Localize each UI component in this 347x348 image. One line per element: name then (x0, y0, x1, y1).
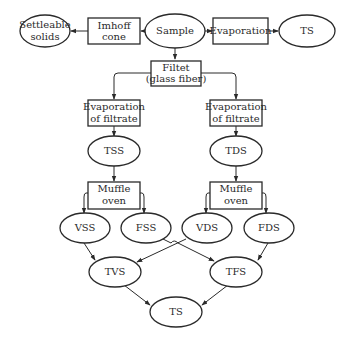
solids-analysis-flowchart: Settleable solids Imhoff cone Sample Eva… (0, 0, 347, 348)
filter-label-line2: (glass fiber) (146, 73, 207, 84)
tfs-label: TFS (226, 266, 247, 277)
evap-right-label-line2: of filtrate (212, 113, 260, 124)
evap-right-label-line1: Evaporation (205, 101, 267, 112)
settleable-label-line2: solids (30, 31, 59, 42)
node-vds: VDS (182, 213, 232, 243)
evap-left-label-line1: Evaporation (83, 101, 145, 112)
node-fds: FDS (244, 213, 294, 243)
node-ts-top: TS (279, 15, 335, 47)
muffle-left-label-line2: oven (102, 195, 127, 206)
node-tfs: TFS (210, 257, 262, 287)
node-sample: Sample (145, 14, 205, 48)
imhoff-label-line2: cone (102, 31, 126, 42)
node-muffle-oven-left: Muffle oven (88, 182, 140, 209)
node-muffle-oven-right: Muffle oven (210, 182, 262, 209)
node-tss: TSS (88, 136, 140, 166)
filter-label-line1: Filtet (162, 62, 189, 73)
imhoff-label-line1: Imhoff (98, 20, 132, 31)
node-evaporation: Evaporation (210, 18, 272, 44)
edge-vss-tvs (84, 243, 95, 260)
muffle-right-label-line2: oven (224, 195, 249, 206)
edge-fds-tfs (258, 243, 268, 260)
tss-label: TSS (104, 145, 124, 156)
fss-label: FSS (136, 222, 157, 233)
evap-left-label-line2: of filtrate (90, 113, 138, 124)
muffle-left-label-line1: Muffle (98, 183, 131, 194)
evaporation-label: Evaporation (210, 25, 272, 36)
ts-top-label: TS (300, 25, 314, 36)
node-evap-filtrate-left: Evaporation of filtrate (83, 100, 145, 126)
tds-label: TDS (225, 145, 247, 156)
vds-label: VDS (195, 222, 218, 233)
node-tds: TDS (210, 136, 262, 166)
node-settleable-solids: Settleable solids (19, 15, 70, 47)
tvs-label: TVS (105, 266, 126, 277)
fds-label: FDS (258, 222, 280, 233)
vss-label: VSS (74, 222, 96, 233)
node-vss: VSS (60, 213, 110, 243)
ts-bottom-label: TS (169, 306, 183, 317)
node-fss: FSS (121, 213, 171, 243)
sample-label: Sample (156, 25, 194, 36)
node-imhoff-cone: Imhoff cone (88, 18, 140, 44)
node-ts-bottom: TS (150, 297, 202, 327)
edge-tvs-ts (124, 285, 150, 305)
settleable-label-line1: Settleable (19, 19, 70, 30)
edge-tfs-ts (202, 285, 228, 305)
node-evap-filtrate-right: Evaporation of filtrate (205, 100, 267, 126)
muffle-right-label-line1: Muffle (220, 183, 253, 194)
node-tvs: TVS (89, 257, 141, 287)
node-filter: Filtet (glass fiber) (146, 61, 207, 86)
